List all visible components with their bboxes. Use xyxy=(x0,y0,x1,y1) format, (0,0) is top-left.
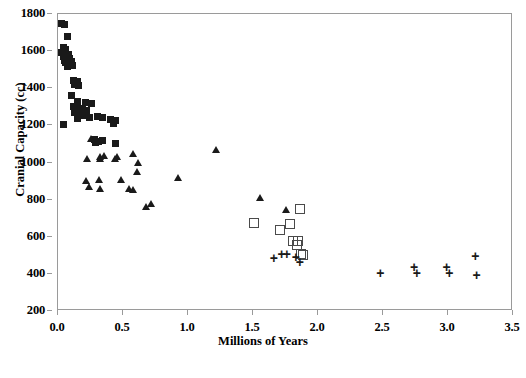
data-point-filled-square xyxy=(99,137,106,144)
plot-frame: ++++++++++++ xyxy=(57,13,512,310)
data-point-filled-triangle xyxy=(87,135,95,142)
y-tick-mark xyxy=(47,13,52,14)
data-point-filled-square xyxy=(112,140,119,147)
data-point-plus: + xyxy=(472,268,482,280)
x-tick-label: 3.0 xyxy=(439,320,454,335)
x-tick-mark xyxy=(187,310,188,315)
data-point-plus: + xyxy=(444,266,454,278)
x-tick-label: 1.5 xyxy=(244,320,259,335)
y-tick-mark xyxy=(47,124,52,125)
y-tick-label: 800 xyxy=(27,191,45,206)
data-point-filled-triangle xyxy=(282,206,290,213)
data-point-filled-triangle xyxy=(212,146,220,153)
data-point-plus: + xyxy=(470,249,480,261)
y-tick-label: 200 xyxy=(27,303,45,318)
x-axis-tick-labels: 0.00.51.01.52.02.53.03.5 xyxy=(57,314,512,332)
data-point-filled-triangle xyxy=(96,185,104,192)
data-point-plus: + xyxy=(375,266,385,278)
y-tick-mark xyxy=(47,87,52,88)
data-point-filled-triangle xyxy=(256,194,264,201)
data-point-filled-triangle xyxy=(117,176,125,183)
x-tick-label: 0.0 xyxy=(49,320,64,335)
x-tick-mark xyxy=(317,310,318,315)
y-tick-mark xyxy=(47,50,52,51)
x-axis-title: Millions of Years xyxy=(0,334,526,349)
data-point-filled-triangle xyxy=(95,176,103,183)
x-tick-label: 0.5 xyxy=(114,320,129,335)
y-tick-label: 600 xyxy=(27,228,45,243)
x-tick-label: 2.0 xyxy=(309,320,324,335)
x-tick-mark xyxy=(512,310,513,315)
data-point-filled-triangle xyxy=(174,174,182,181)
x-tick-mark xyxy=(252,310,253,315)
x-tick-mark xyxy=(57,310,58,315)
data-point-filled-square xyxy=(60,121,67,128)
data-point-open-square xyxy=(285,219,295,229)
y-tick-mark xyxy=(47,310,52,311)
chart-figure: ++++++++++++ 200400600800100012001400160… xyxy=(0,0,526,378)
data-point-filled-triangle xyxy=(83,155,91,162)
data-point-filled-square xyxy=(61,21,68,28)
data-point-open-square xyxy=(249,218,259,228)
data-point-filled-triangle xyxy=(85,183,93,190)
data-point-filled-triangle xyxy=(133,168,141,175)
data-point-filled-square xyxy=(86,114,93,121)
data-point-filled-square xyxy=(99,114,106,121)
x-tick-mark xyxy=(382,310,383,315)
data-point-filled-square xyxy=(74,115,81,122)
data-point-filled-triangle xyxy=(113,153,121,160)
y-axis-title: Cranial Capacity (cc) xyxy=(13,40,28,240)
data-point-filled-square xyxy=(110,120,117,127)
data-point-filled-triangle xyxy=(147,200,155,207)
x-tick-label: 1.0 xyxy=(179,320,194,335)
data-point-filled-triangle xyxy=(129,150,137,157)
y-tick-label: 400 xyxy=(27,265,45,280)
y-tick-mark xyxy=(47,162,52,163)
data-point-plus: + xyxy=(295,255,305,267)
plot-area: ++++++++++++ xyxy=(58,14,511,309)
data-point-filled-square xyxy=(64,63,71,70)
data-point-open-square xyxy=(295,204,305,214)
data-point-filled-triangle xyxy=(129,186,137,193)
y-tick-mark xyxy=(47,236,52,237)
x-tick-mark xyxy=(122,310,123,315)
y-tick-mark xyxy=(47,273,52,274)
y-tick-label: 1800 xyxy=(21,6,45,21)
data-point-filled-square xyxy=(88,100,95,107)
data-point-filled-triangle xyxy=(134,159,142,166)
data-point-open-square xyxy=(275,225,285,235)
x-tick-label: 2.5 xyxy=(374,320,389,335)
data-point-filled-square xyxy=(75,82,82,89)
data-point-plus: + xyxy=(412,266,422,278)
data-point-filled-triangle xyxy=(100,152,108,159)
x-tick-mark xyxy=(447,310,448,315)
x-tick-label: 3.5 xyxy=(504,320,519,335)
y-tick-mark xyxy=(47,199,52,200)
data-point-filled-square xyxy=(64,33,71,40)
